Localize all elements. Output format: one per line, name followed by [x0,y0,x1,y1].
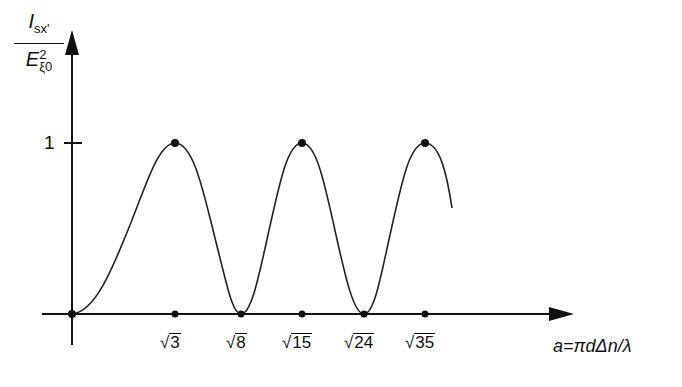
tick-value: 8 [235,333,246,351]
x-tick-label-sqrt15: √15 [282,333,312,353]
x-axis-arrow-icon [549,307,574,321]
x-axis-label: a=πdΔn/λ [553,336,632,357]
radical-icon: √ [405,333,414,353]
x-tick-label-sqrt24: √24 [344,333,374,353]
radical-icon: √ [282,333,291,353]
y-axis-label: Isx' E2ξ0 [14,8,64,74]
data-markers [68,139,429,318]
y-label-denominator: E2ξ0 [14,44,64,74]
tick-value: 15 [291,333,312,351]
tick-value: 24 [353,333,374,351]
chart-canvas [0,0,682,387]
intensity-curve [72,143,452,314]
x-tick-label-sqrt3: √3 [160,333,181,353]
radical-icon: √ [226,333,235,353]
x-tick-label-sqrt35: √35 [405,333,435,353]
x-tick-label-sqrt8: √8 [226,333,247,353]
radical-icon: √ [344,333,353,353]
radical-icon: √ [160,333,169,353]
y-den-subscript: ξ0 [39,61,52,73]
y-label-numerator: Isx' [14,8,64,44]
y-tick-label-1: 1 [44,132,55,154]
tick-value: 3 [169,333,180,351]
y-den-symbol: E [26,48,39,70]
y-num-subscript: sx' [34,21,49,36]
tick-value: 35 [414,333,435,351]
y-axis-arrow-icon [65,30,79,55]
